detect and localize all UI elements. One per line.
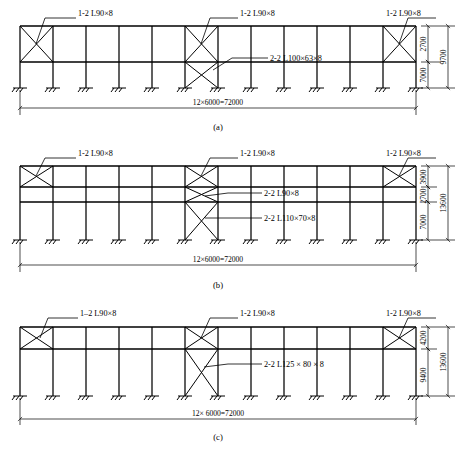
panel-a-dim-2700: 2700 [419, 36, 428, 51]
panel-a-columns [20, 26, 416, 88]
panel-a-span-label: 12×6000=72000 [193, 98, 244, 107]
panel-b-leaders [36, 158, 436, 218]
panel-c-dim-total: 13600 [439, 352, 448, 371]
panel-a-lower-brace [185, 62, 218, 88]
panel-a-right-brace-label: 1-2 L90×8 [386, 9, 421, 18]
panel-c-dim-4200: 4200 [419, 330, 428, 345]
panel-c-supports [12, 396, 423, 400]
panel-b-dim-total: 13600 [439, 193, 448, 212]
panel-c: 1–2 L90×8 1-2 L90×8 1-2 L90×8 2-2 L125 ×… [12, 309, 455, 442]
panel-a-lower-brace-label: 2-2 L100×63×8 [270, 54, 322, 63]
panel-c-caption: (c) [213, 432, 223, 442]
panel-b-dim-3900: 3900 [419, 169, 428, 184]
panel-b-dim-7000: 7000 [419, 214, 428, 229]
panel-a: 1-2 L90×8 1-2 L90×8 1-2 L90×8 2-2 L100×6… [12, 9, 455, 132]
panel-b: 1-2 L90×8 1-2 L90×8 1-2 L90×8 2-2 L90×8 … [12, 149, 455, 290]
panel-b-left-brace-label: 1-2 L90×8 [78, 149, 113, 158]
panel-c-leaders [40, 318, 436, 367]
panel-c-right-brace-label: 1-2 L90×8 [386, 309, 421, 318]
drawing-sheet: 1-2 L90×8 1-2 L90×8 1-2 L90×8 2-2 L100×6… [0, 0, 464, 455]
panel-a-mid-brace-label: 1-2 L90×8 [240, 9, 275, 18]
panel-b-lower-brace [185, 202, 218, 240]
panel-b-mid-lower-brace-label: 2-2 L90×8 [264, 189, 299, 198]
panel-a-supports [12, 88, 423, 92]
panel-b-mid-brace [185, 187, 218, 202]
panel-c-lower-brace-label: 2-2 L125 × 80 × 8 [264, 360, 324, 369]
panel-c-mid-brace-label: 1-2 L90×8 [240, 309, 275, 318]
panel-a-caption: (a) [213, 122, 223, 132]
panel-b-caption: (b) [213, 280, 223, 290]
frame-elevations-svg: 1-2 L90×8 1-2 L90×8 1-2 L90×8 2-2 L100×6… [0, 0, 464, 455]
panel-a-left-brace-label: 1-2 L90×8 [78, 9, 113, 18]
panel-c-lower-brace [185, 349, 218, 396]
panel-a-dim-total: 9700 [439, 49, 448, 64]
panel-a-dim-7000: 7000 [419, 67, 428, 82]
panel-c-span-label: 12× 6000=72000 [192, 409, 244, 418]
panel-b-span-label: 12×6000=72000 [193, 255, 244, 264]
panel-c-dim-9400: 9400 [419, 367, 428, 382]
panel-b-right-brace-label: 1-2 L90×8 [386, 149, 421, 158]
panel-b-dim-2700: 2700 [419, 188, 428, 203]
panel-c-columns [20, 327, 416, 396]
panel-b-lower-brace-label: 2-2 L110×70×8 [264, 214, 315, 223]
panel-b-supports [12, 240, 423, 244]
panel-b-columns [20, 166, 416, 240]
panel-c-left-brace-label: 1–2 L90×8 [80, 309, 116, 318]
panel-b-mid-brace-label: 1-2 L90×8 [240, 149, 275, 158]
